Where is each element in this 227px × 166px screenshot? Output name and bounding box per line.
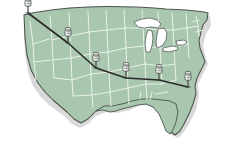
map-pushpin-icon[interactable]: Pacific Northwest (25, 0, 31, 14)
us-landmass (24, 7, 208, 135)
us-route-map: Pacific NorthwestNorthern RockiesCentral… (0, 0, 227, 166)
map-canvas: Pacific NorthwestNorthern RockiesCentral… (0, 0, 227, 166)
